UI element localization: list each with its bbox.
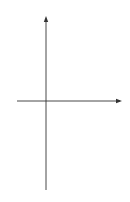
y-axis-arrow-icon bbox=[44, 16, 48, 22]
x-axis-arrow-icon bbox=[116, 99, 122, 103]
parabola-diagram bbox=[0, 0, 130, 202]
